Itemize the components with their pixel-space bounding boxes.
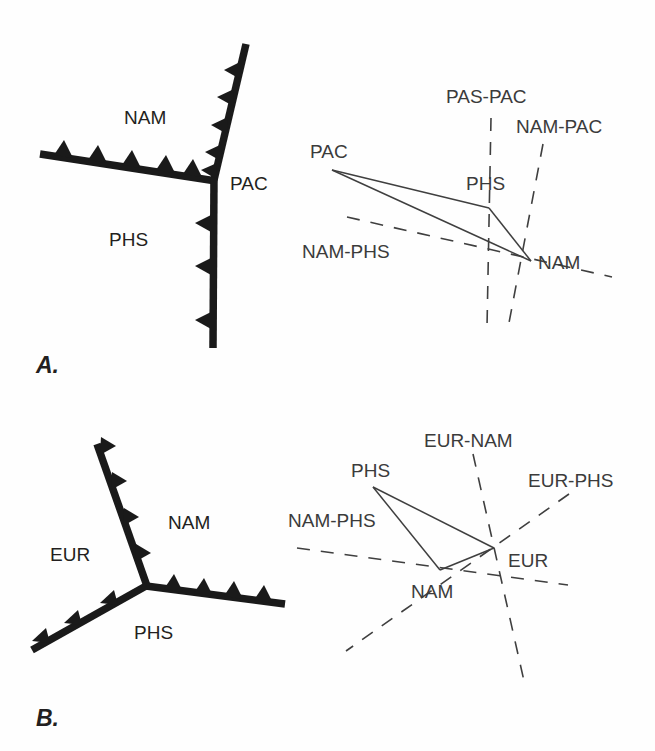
panel-a-letter: A. <box>35 352 59 378</box>
barb-triangle <box>88 145 107 163</box>
boundary-south <box>213 178 214 348</box>
panel-b-velocity-label-nam-phs: NAM-PHS <box>288 510 376 531</box>
panel-b-barbs-north <box>100 437 151 562</box>
panel-b-velocity-label-eur-phs: EUR-PHS <box>528 470 614 491</box>
barb-triangle <box>123 508 139 526</box>
panel-b-velocity-label-nam: NAM <box>411 581 453 602</box>
panel-a-map-boundaries <box>40 44 246 348</box>
barb-triangle <box>195 258 211 275</box>
panel-a-velocity-constraints <box>347 118 612 328</box>
panel-a-velocity-label-pas-pac: PAS-PAC <box>446 86 527 107</box>
panel-a-velocity-label-phs: PHS <box>466 173 505 194</box>
panel-a-velocity-label-nam: NAM <box>538 252 580 273</box>
panel-a-velocity-label-nam-pac: NAM-PAC <box>516 116 602 137</box>
constraint-line-pas-pac <box>487 118 491 327</box>
barb-triangle <box>32 628 50 643</box>
barb-triangle <box>111 472 127 490</box>
barb-triangle <box>195 312 211 329</box>
barb-triangle <box>135 544 151 562</box>
barb-triangle <box>217 89 234 106</box>
barb-triangle <box>224 62 240 79</box>
panel-a-map-label-phs: PHS <box>109 229 148 250</box>
panel-a-map-label-pac: PAC <box>230 173 268 194</box>
panel-b-map-label-phs: PHS <box>134 622 173 643</box>
constraint-line-eur-phs <box>346 494 569 651</box>
barb-triangle <box>195 215 211 232</box>
barb-triangle <box>194 578 213 596</box>
barb-triangle <box>156 155 175 173</box>
barb-triangle <box>54 140 73 158</box>
barb-triangle <box>122 150 141 168</box>
barb-triangle <box>100 590 118 605</box>
panel-a-graphics: NAM PAC PHS PAS-PAC NAM-PAC PAC PHS NAM-… <box>0 0 655 751</box>
panel-a-map-label-nam: NAM <box>124 107 166 128</box>
barb-triangle <box>64 610 82 625</box>
velocity-edge-phs-nam <box>373 487 440 570</box>
panel-b-map-label-eur: EUR <box>50 544 90 565</box>
panel-a-velocity-label-pac: PAC <box>310 141 348 162</box>
panel-a-barbs-south <box>195 215 211 329</box>
velocity-edge-phs-nam <box>489 208 531 261</box>
barb-triangle <box>100 437 116 455</box>
panel-b-letter: B. <box>36 705 59 731</box>
panel-b-velocity-label-phs: PHS <box>351 460 390 481</box>
panel-b-barbs-southwest <box>32 590 118 643</box>
barb-triangle <box>164 574 183 592</box>
constraint-line-nam-pac <box>508 144 543 328</box>
panel-b-velocity-triangle <box>373 487 494 570</box>
panel-b-velocity-label-eur: EUR <box>508 550 548 571</box>
velocity-edge-eur-phs <box>373 487 494 548</box>
boundary-north <box>97 444 147 586</box>
figure-canvas: NAM PAC PHS PAS-PAC NAM-PAC PAC PHS NAM-… <box>0 0 655 751</box>
panel-b-velocity-label-eur-nam: EUR-NAM <box>424 430 513 451</box>
barb-triangle <box>183 159 202 177</box>
barb-triangle <box>205 144 222 161</box>
barb-triangle <box>224 581 243 599</box>
panel-b-map-label-nam: NAM <box>168 512 210 533</box>
panel-a-velocity-label-nam-phs: NAM-PHS <box>302 241 390 262</box>
barb-triangle <box>254 585 273 603</box>
barb-triangle <box>211 117 228 134</box>
